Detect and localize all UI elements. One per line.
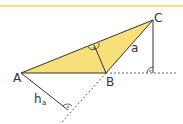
label-a-vertex: A bbox=[13, 71, 22, 85]
label-altitude-sub: a bbox=[42, 99, 46, 107]
label-side-a: a bbox=[131, 41, 138, 55]
label-b-vertex: B bbox=[106, 75, 114, 89]
triangle-diagram: A B C a h a bbox=[0, 0, 183, 124]
right-angle-dot-c bbox=[149, 70, 151, 72]
right-angle-dot-ac bbox=[93, 47, 95, 49]
extension-cb bbox=[62, 73, 106, 122]
right-angle-mark-c bbox=[147, 67, 153, 73]
label-c-vertex: C bbox=[154, 11, 162, 25]
right-angle-dot-ha bbox=[67, 106, 69, 108]
label-altitude-h: h bbox=[34, 92, 42, 106]
right-angle-mark-ha bbox=[63, 104, 72, 106]
